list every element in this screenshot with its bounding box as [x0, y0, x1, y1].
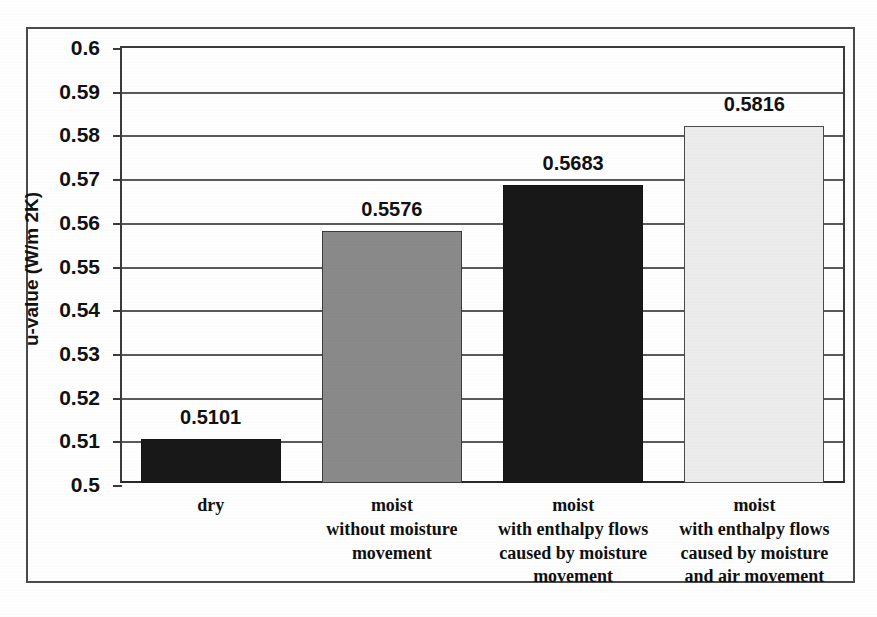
bar-value-label: 0.5576 [297, 198, 487, 221]
category-label-line: movement [301, 542, 482, 566]
bar-value-label: 0.5816 [659, 93, 849, 116]
y-axis-tick-label: 0.58 [22, 123, 100, 147]
x-axis-category-labels: drymoistwithout moisturemovementmoistwit… [120, 492, 845, 578]
category-label-line: with enthalpy flows [483, 518, 664, 542]
y-axis-tick-label: 0.52 [22, 385, 100, 409]
category-label-line: caused by moisture [483, 542, 664, 566]
y-axis-tick-label: 0.54 [22, 298, 100, 322]
y-axis-tick-label: 0.55 [22, 254, 100, 278]
bar[interactable] [141, 439, 281, 483]
y-axis-tick-mark [113, 485, 122, 487]
category-label-line: movement [483, 565, 664, 589]
bars-layer: 0.51010.55760.56830.5816 [120, 46, 845, 483]
bar[interactable] [503, 185, 643, 483]
x-axis-category-label: moistwith enthalpy flowscaused by moistu… [664, 492, 845, 578]
bar-value-label: 0.5683 [478, 152, 668, 175]
category-label-line: and air movement [664, 565, 845, 589]
x-axis-category-label: dry [120, 492, 301, 578]
category-label-line: moist [483, 494, 664, 518]
y-axis-tick-label: 0.6 [22, 36, 100, 60]
category-label-line: moist [301, 494, 482, 518]
y-axis-tick-label: 0.53 [22, 341, 100, 365]
bar-value-label: 0.5101 [116, 406, 306, 429]
category-label-line: with enthalpy flows [664, 518, 845, 542]
category-label-line: without moisture [301, 518, 482, 542]
y-axis-tick-label: 0.57 [22, 167, 100, 191]
y-axis-tick-label: 0.5 [22, 473, 100, 497]
x-axis-category-label: moistwith enthalpy flowscaused by moistu… [483, 492, 664, 578]
y-axis-tick-label: 0.51 [22, 429, 100, 453]
figure-container: u-value (W/m 2K) 0.60.590.580.570.560.55… [0, 0, 877, 617]
category-label-line: moist [664, 494, 845, 518]
bar[interactable] [322, 231, 462, 483]
category-label-line: dry [120, 494, 301, 518]
category-label-line: caused by moisture [664, 542, 845, 566]
y-axis-tick-label: 0.56 [22, 210, 100, 234]
x-axis-category-label: moistwithout moisturemovement [301, 492, 482, 578]
bar[interactable] [684, 126, 824, 483]
y-axis-tick-label: 0.59 [22, 79, 100, 103]
